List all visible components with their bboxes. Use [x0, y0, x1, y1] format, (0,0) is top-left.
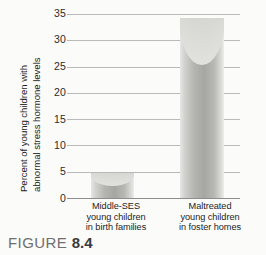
- category-label-line-2: young children: [156, 212, 264, 223]
- y-tick-label-25: 25: [54, 61, 66, 72]
- bar-cylinder-highlight: [180, 18, 224, 65]
- bar-middle-ses[interactable]: [91, 173, 134, 198]
- y-axis-title-line-2: abnormal stress hormone levels: [31, 58, 42, 192]
- figure-caption-number: 8.4: [72, 234, 93, 251]
- bar-maltreated[interactable]: [180, 18, 224, 198]
- plot-area: [67, 14, 240, 198]
- category-label-line-2: young children: [62, 212, 170, 223]
- y-tick-label-15: 15: [54, 114, 66, 125]
- category-label-middle-ses: Middle-SES young children in birth famil…: [62, 201, 170, 233]
- y-tick-label-30: 30: [54, 34, 66, 45]
- category-label-line-1: Maltreated: [156, 201, 264, 212]
- category-label-line-3: in foster homes: [156, 222, 264, 233]
- y-tick-label-10: 10: [54, 140, 66, 151]
- y-tick-label-35: 35: [54, 8, 66, 19]
- category-label-line-3: in birth families: [62, 222, 170, 233]
- axis-baseline: [67, 198, 240, 199]
- figure-caption: FIGURE 8.4: [8, 234, 93, 251]
- y-tick-label-20: 20: [54, 87, 66, 98]
- figure-container: Percent of young children with abnormal …: [0, 0, 266, 255]
- category-label-maltreated: Maltreated young children in foster home…: [156, 201, 264, 233]
- category-label-line-1: Middle-SES: [62, 201, 170, 212]
- bar-cylinder-highlight: [91, 173, 134, 186]
- y-tick-label-5: 5: [60, 166, 66, 177]
- y-axis-title-line-1: Percent of young children with: [18, 65, 29, 192]
- y-axis-title: Percent of young children with abnormal …: [0, 0, 44, 200]
- gridline-35: [67, 14, 240, 15]
- figure-caption-prefix: FIGURE: [8, 234, 67, 251]
